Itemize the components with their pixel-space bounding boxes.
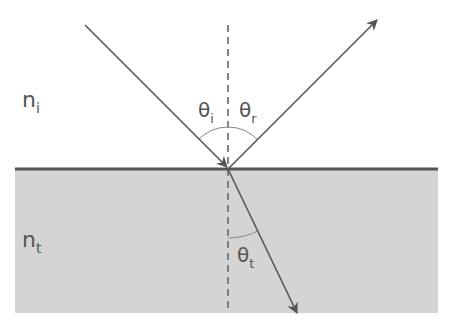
- label-n-i: ni: [22, 87, 40, 116]
- optics-diagram: ni nt θi θr θt: [0, 0, 455, 329]
- arc-theta-r: [228, 127, 257, 139]
- medium-t-region: [15, 169, 438, 313]
- incident-ray: [85, 25, 227, 167]
- reflected-ray: [229, 20, 377, 168]
- arc-theta-i: [199, 127, 228, 139]
- label-theta-i: θi: [198, 98, 214, 126]
- label-theta-r: θr: [239, 98, 257, 126]
